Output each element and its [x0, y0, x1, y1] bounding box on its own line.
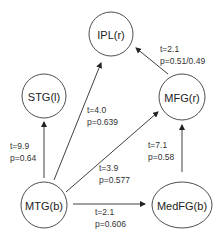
- node-mtg: MTG(b): [21, 182, 67, 228]
- edge-mtg-stg-t: t=9.9: [10, 141, 29, 151]
- edge-mtg-mfg-p: p=0.577: [99, 175, 130, 185]
- node-mfg: MFG(r): [159, 74, 205, 120]
- node-medfg: MedFG(b): [152, 182, 212, 228]
- edge-mtg-medfg-t: t=2.1: [95, 207, 114, 217]
- edge-mtg-mfg-t: t=3.9: [99, 163, 118, 173]
- node-ipl-label: IPL(r): [97, 29, 125, 41]
- node-stg-label: STG(l): [28, 91, 60, 103]
- edge-mtg-medfg-p: p=0.606: [95, 219, 126, 229]
- connectivity-diagram: IPL(r) STG(l) MFG(r) MTG(b) MedFG(b) t=9…: [0, 0, 224, 236]
- node-medfg-label: MedFG(b): [157, 200, 207, 212]
- edge-medfg-mfg-p: p=0.58: [148, 152, 175, 162]
- node-mfg-label: MFG(r): [164, 92, 199, 104]
- edge-mfg-ipl-t: t=2.1: [160, 44, 179, 54]
- edge-mtg-ipl-t: t=4.0: [87, 105, 106, 115]
- edge-medfg-mfg-t: t=7.1: [148, 140, 167, 150]
- node-stg: STG(l): [22, 74, 66, 118]
- edge-mtg-stg-p: p=0.64: [10, 153, 37, 163]
- edge-mtg-ipl-p: p=0.639: [87, 117, 118, 127]
- node-ipl: IPL(r): [89, 12, 133, 56]
- edge-mfg-ipl-p: p=0.51/0.49: [160, 56, 205, 66]
- node-mtg-label: MTG(b): [25, 200, 63, 212]
